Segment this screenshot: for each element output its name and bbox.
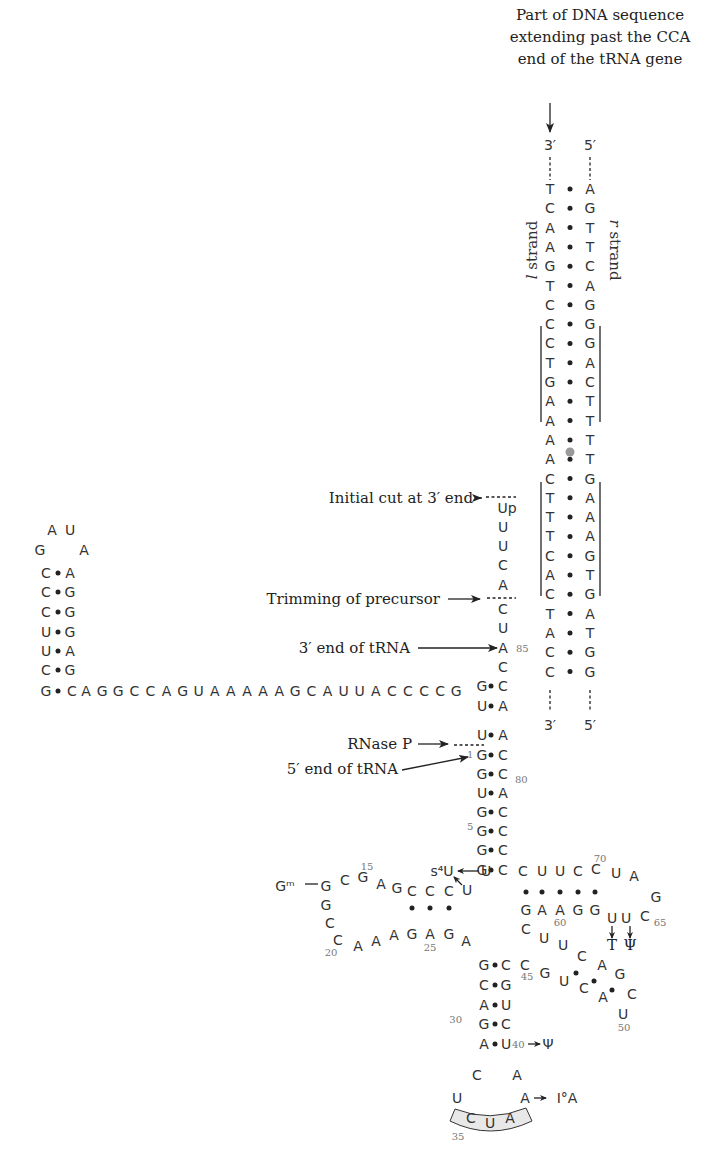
nt: U bbox=[559, 973, 569, 989]
pair-dot bbox=[568, 457, 573, 462]
acceptor-5prime-base: G bbox=[477, 678, 488, 694]
number-25: 25 bbox=[424, 942, 437, 953]
acceptor-3prime-tail: UpUUCACUAC bbox=[497, 500, 516, 675]
pair-dot bbox=[493, 983, 498, 988]
acceptor-3prime-base: C bbox=[498, 766, 508, 782]
hairpin-right-base: G bbox=[65, 584, 76, 600]
anticodon-stem-left-base: C bbox=[479, 977, 489, 993]
nt: C bbox=[573, 863, 583, 879]
number-5: 5 bbox=[467, 821, 473, 832]
l-strand-base: C bbox=[545, 297, 555, 313]
l-strand-base: T bbox=[545, 606, 555, 622]
l-strand-base: A bbox=[545, 432, 555, 448]
nt: A bbox=[520, 1090, 530, 1106]
acceptor-5prime-base: G bbox=[477, 804, 488, 820]
r-strand-base: G bbox=[585, 200, 596, 216]
tail-base: A bbox=[498, 577, 508, 593]
nt: C bbox=[444, 883, 454, 899]
leader-base: C bbox=[419, 683, 429, 699]
nt: A bbox=[629, 868, 639, 884]
nt: C bbox=[425, 883, 435, 899]
nt: G bbox=[392, 880, 403, 896]
acceptor-3prime-base: C bbox=[498, 862, 508, 878]
pair-dot bbox=[489, 753, 494, 758]
l-strand-base: C bbox=[545, 644, 555, 660]
t-arm: C U U C C 70 U A G C 65 U U T Ψ G A A 60… bbox=[518, 853, 666, 1033]
leader-base: C bbox=[129, 683, 139, 699]
pair-dot bbox=[568, 225, 573, 230]
l-strand-base: C bbox=[545, 316, 555, 332]
pair-dot bbox=[489, 810, 494, 815]
hairpin-left-base: C bbox=[41, 604, 51, 620]
r-strand-base: G bbox=[585, 316, 596, 332]
acceptor-3prime-base: C bbox=[498, 823, 508, 839]
pair-dot bbox=[447, 906, 452, 911]
acceptor-5prime-base: G bbox=[477, 747, 488, 763]
pair-dot bbox=[568, 399, 573, 404]
l-strand-base: C bbox=[545, 335, 555, 351]
anticodon-stem-left-base: A bbox=[479, 1036, 489, 1052]
pair-dot bbox=[410, 906, 415, 911]
nt: A bbox=[425, 926, 435, 942]
hairpin-loop-base: A bbox=[47, 522, 57, 538]
nt: A bbox=[537, 902, 547, 918]
number-45: 45 bbox=[521, 971, 534, 982]
pair-dot bbox=[610, 988, 615, 993]
l-strand-base: T bbox=[545, 490, 555, 506]
pair-dot bbox=[568, 341, 573, 346]
r-strand-base: T bbox=[585, 413, 595, 429]
number-50: 50 bbox=[618, 1022, 631, 1033]
diagram-svg: Part of DNA sequence extending past the … bbox=[0, 0, 701, 1157]
tail-base: A bbox=[498, 640, 508, 656]
three-prime-end-label: 3′ end of tRNA bbox=[299, 639, 410, 657]
pair-dot bbox=[493, 1003, 498, 1008]
l-strand-base: A bbox=[545, 220, 555, 236]
nt: C bbox=[340, 872, 350, 888]
pair-dot bbox=[574, 971, 579, 976]
number-20: 20 bbox=[325, 947, 338, 958]
hairpin-right-base: A bbox=[65, 565, 75, 581]
pair-dot bbox=[56, 668, 61, 673]
gray-marker-dot bbox=[566, 448, 575, 457]
l-strand-3prime-bottom: 3′ bbox=[544, 717, 556, 733]
acceptor-5prime-base: U bbox=[477, 727, 487, 743]
l-strand-base: A bbox=[545, 567, 555, 583]
trna-diagram: Part of DNA sequence extending past the … bbox=[0, 0, 701, 1157]
leader-base: C bbox=[403, 683, 413, 699]
pair-dot bbox=[489, 848, 494, 853]
leader-sequence: AGGCCAGUAAAAAGCAUUACCCCGGCCACGCGUGUACGGA… bbox=[35, 522, 462, 699]
initial-cut-label: Initial cut at 3′ end bbox=[329, 489, 474, 507]
number-80: 80 bbox=[515, 774, 528, 785]
leader-base: A bbox=[162, 683, 172, 699]
hairpin-loop-base: G bbox=[35, 542, 46, 558]
leader-base: G bbox=[451, 683, 462, 699]
hairpin-right-base: A bbox=[65, 643, 75, 659]
nt: G bbox=[590, 902, 601, 918]
r-strand-base: T bbox=[585, 625, 595, 641]
leader-base: A bbox=[371, 683, 381, 699]
nt: G bbox=[321, 897, 332, 913]
pair-dot bbox=[568, 283, 573, 288]
nt: G bbox=[573, 902, 584, 918]
acceptor-5prime-base: G bbox=[477, 766, 488, 782]
anticodon-stem-left-base: G bbox=[479, 957, 490, 973]
leader-base: C bbox=[307, 683, 317, 699]
pair-dot bbox=[489, 733, 494, 738]
leader-base: G bbox=[113, 683, 124, 699]
anticodon-u: U bbox=[485, 1115, 495, 1131]
nt: A bbox=[598, 989, 608, 1005]
leader-base: A bbox=[274, 683, 284, 699]
anticodon-a: A bbox=[505, 1110, 515, 1126]
tail-base: C bbox=[498, 601, 508, 617]
number-40: 40 bbox=[512, 1039, 525, 1050]
l-strand-base: T bbox=[545, 355, 555, 371]
pair-dot bbox=[56, 689, 61, 694]
nt: U bbox=[452, 1090, 462, 1106]
acceptor-3prime-base: A bbox=[498, 785, 508, 801]
l-strand-base: C bbox=[545, 471, 555, 487]
leader-base: A bbox=[323, 683, 333, 699]
acceptor-5prime-base: U bbox=[477, 785, 487, 801]
dna-annotation: Part of DNA sequence extending past the … bbox=[510, 6, 691, 132]
hairpin-left-base: C bbox=[41, 584, 51, 600]
leader-base: A bbox=[210, 683, 220, 699]
